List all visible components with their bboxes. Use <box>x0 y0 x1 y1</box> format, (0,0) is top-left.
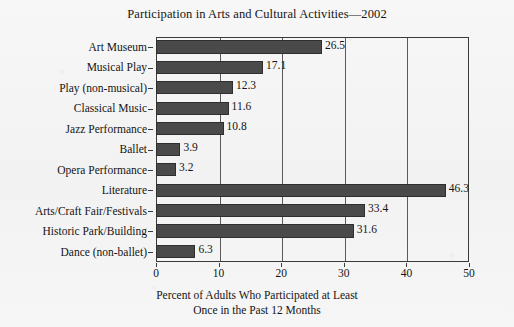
bar-value-label: 3.2 <box>176 161 193 173</box>
bar-value-label: 26.5 <box>322 39 345 51</box>
category-tick <box>148 150 153 151</box>
bar <box>156 40 322 53</box>
category-tick <box>148 88 153 89</box>
bar <box>156 184 446 197</box>
category-label: Literature <box>102 180 147 200</box>
bar <box>156 81 233 94</box>
bar-value-label: 12.3 <box>233 79 256 91</box>
category-tick <box>148 190 153 191</box>
category-tick <box>148 68 153 69</box>
bar-row: 10.8 <box>156 119 469 139</box>
bar-value-label: 33.4 <box>365 202 388 214</box>
category-label: Arts/Craft Fair/Festivals <box>35 201 147 221</box>
category-tick <box>148 211 153 212</box>
bar-row: 46.3 <box>156 180 469 200</box>
category-label: Classical Music <box>74 98 147 118</box>
bar <box>156 61 263 74</box>
value-tick-label-40: 40 <box>401 267 413 279</box>
category-label: Dance (non-ballet) <box>60 242 147 262</box>
bar-value-label: 17.1 <box>263 59 286 71</box>
value-axis-ticks: 01020304050 <box>156 263 469 283</box>
x-axis-caption-line-2: Once in the Past 12 Months <box>0 303 514 318</box>
bar <box>156 245 195 258</box>
bar <box>156 204 365 217</box>
bar-row: 31.6 <box>156 221 469 241</box>
category-tick <box>148 109 153 110</box>
bar <box>156 224 354 237</box>
value-tick-label-50: 50 <box>463 267 475 279</box>
bar-value-label: 11.6 <box>229 100 252 112</box>
category-tick <box>148 231 153 232</box>
bar-row: 17.1 <box>156 57 469 77</box>
category-tick <box>148 129 153 130</box>
bar-row: 6.3 <box>156 242 469 262</box>
bar <box>156 143 180 156</box>
bar-value-label: 3.9 <box>180 141 197 153</box>
bar-row: 3.9 <box>156 139 469 159</box>
category-label: Jazz Performance <box>66 119 147 139</box>
value-tick-label-10: 10 <box>213 267 225 279</box>
bar-value-label: 46.3 <box>446 182 469 194</box>
bar-row: 33.4 <box>156 201 469 221</box>
category-tick <box>148 170 153 171</box>
value-tick-label-30: 30 <box>338 267 350 279</box>
category-tick <box>148 252 153 253</box>
category-label: Play (non-musical) <box>59 78 147 98</box>
category-label: Art Museum <box>89 37 147 57</box>
category-label: Opera Performance <box>57 160 147 180</box>
category-tick <box>148 47 153 48</box>
bar-row: 26.5 <box>156 37 469 57</box>
value-tick-label-0: 0 <box>153 267 159 279</box>
category-axis-labels: Art MuseumMusical PlayPlay (non-musical)… <box>0 37 152 262</box>
bar-chart-figure: Participation in Arts and Cultural Activ… <box>0 0 514 327</box>
x-axis-caption-line-1: Percent of Adults Who Participated at Le… <box>0 288 514 303</box>
bar-row: 3.2 <box>156 160 469 180</box>
bar <box>156 102 229 115</box>
bar-row: 12.3 <box>156 78 469 98</box>
bars-layer: 26.517.112.311.610.83.93.246.333.431.66.… <box>156 37 469 262</box>
bar <box>156 122 224 135</box>
bar-row: 11.6 <box>156 98 469 118</box>
category-label: Musical Play <box>87 57 147 77</box>
category-label: Ballet <box>120 139 147 159</box>
bar-value-label: 31.6 <box>354 223 377 235</box>
bar-value-label: 10.8 <box>224 120 247 132</box>
x-axis-caption: Percent of Adults Who Participated at Le… <box>0 288 514 317</box>
chart-title: Participation in Arts and Cultural Activ… <box>0 7 514 22</box>
category-label: Historic Park/Building <box>43 221 147 241</box>
bar-value-label: 6.3 <box>195 243 212 255</box>
bar <box>156 163 176 176</box>
value-tick-label-20: 20 <box>275 267 287 279</box>
